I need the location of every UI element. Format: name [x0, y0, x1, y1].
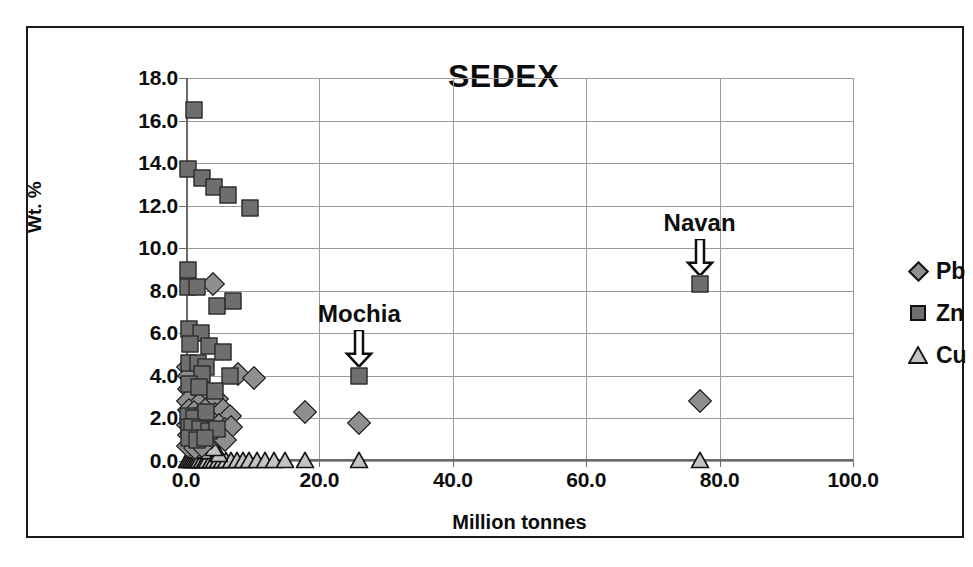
triangle-marker-icon [906, 346, 930, 364]
gridline-horizontal [186, 291, 853, 292]
legend-label: Pb [936, 258, 965, 285]
y-tick-label: 8.0 [150, 279, 178, 303]
annotation-arrow-mochia [344, 330, 374, 371]
y-axis-title: Wt. % [24, 181, 46, 233]
data-point-pb [293, 400, 317, 424]
x-axis-tick-labels: 0.020.040.060.080.0100.0 [186, 468, 853, 496]
x-tick-label: 80.0 [700, 468, 740, 492]
data-point-zn [208, 297, 225, 314]
data-point-zn [215, 344, 232, 361]
data-point-zn [188, 278, 205, 295]
gridline-horizontal [186, 163, 853, 164]
legend-item-cu[interactable]: Cu [906, 334, 967, 376]
data-point-cu [275, 451, 294, 468]
data-point-zn [691, 276, 708, 293]
gridline-horizontal [186, 333, 853, 334]
y-axis-tick-labels: 0.02.04.06.08.010.012.014.016.018.0 [86, 78, 178, 461]
data-point-zn [351, 367, 368, 384]
data-point-cu [295, 451, 314, 468]
x-axis-title: Million tonnes [186, 511, 853, 534]
square-marker-icon [906, 305, 930, 321]
x-tick [319, 461, 320, 467]
x-tick-label: 20.0 [300, 468, 340, 492]
gridline-vertical [319, 78, 320, 461]
data-point-zn [220, 187, 237, 204]
y-tick-label: 4.0 [150, 364, 178, 388]
x-tick [720, 461, 721, 467]
gridline-horizontal [186, 418, 853, 419]
legend-label: Zn [936, 300, 964, 327]
gridline-horizontal [186, 248, 853, 249]
y-tick [179, 121, 186, 122]
y-tick [179, 78, 186, 79]
x-tick [586, 461, 587, 467]
x-tick-label: 0.0 [172, 468, 200, 492]
data-point-zn [186, 101, 203, 118]
annotation-label-mochia: Mochia [318, 300, 401, 328]
legend-item-zn[interactable]: Zn [906, 292, 967, 334]
x-tick-label: 40.0 [433, 468, 473, 492]
data-point-cu [690, 451, 709, 468]
x-tick-label: 100.0 [827, 468, 878, 492]
gridline-vertical [453, 78, 454, 461]
data-point-zn [207, 382, 224, 399]
legend-label: Cu [936, 342, 967, 369]
legend: PbZnCu [906, 250, 967, 376]
y-tick-label: 2.0 [150, 406, 178, 430]
data-point-zn [222, 367, 239, 384]
legend-item-pb[interactable]: Pb [906, 250, 967, 292]
y-tick-label: 6.0 [150, 321, 178, 345]
gridline-horizontal [186, 376, 853, 377]
annotation-arrow-navan [685, 239, 715, 280]
gridline-horizontal [186, 206, 853, 207]
x-tick [453, 461, 454, 467]
data-point-zn [224, 293, 241, 310]
annotation-label-navan: Navan [664, 209, 736, 237]
y-tick-label: 10.0 [138, 236, 178, 260]
diamond-marker-icon [906, 264, 930, 279]
gridline-vertical [586, 78, 587, 461]
y-tick [179, 206, 186, 207]
data-point-zn [182, 335, 199, 352]
gridline-horizontal [186, 121, 853, 122]
data-point-zn [242, 199, 259, 216]
gridline-vertical [853, 78, 854, 461]
data-point-pb [347, 411, 371, 435]
data-point-zn [196, 429, 213, 446]
y-tick-label: 14.0 [138, 151, 178, 175]
data-point-pb [688, 389, 712, 413]
x-tick-label: 60.0 [566, 468, 606, 492]
data-point-zn [191, 378, 208, 395]
gridline-horizontal [186, 78, 853, 79]
y-tick-label: 16.0 [138, 109, 178, 133]
y-tick-label: 12.0 [138, 194, 178, 218]
chart-frame: SEDEX Wt. % Million tonnes 0.02.04.06.08… [26, 26, 964, 538]
data-point-zn [180, 261, 197, 278]
x-tick [853, 461, 854, 467]
data-point-cu [350, 451, 369, 468]
y-tick-label: 18.0 [138, 66, 178, 90]
gridline-vertical [720, 78, 721, 461]
y-tick [179, 248, 186, 249]
plot-area: MochiaNavan [186, 78, 853, 461]
